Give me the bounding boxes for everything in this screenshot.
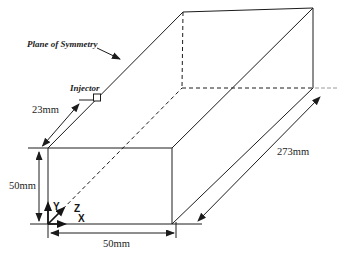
bottom-left-long-edge-hidden <box>48 88 182 224</box>
y-axis-label: Y <box>53 201 60 212</box>
length-dimension-label: 273mm <box>277 146 309 157</box>
length-dimension-line <box>198 97 320 221</box>
top-right-long-edge <box>172 8 313 148</box>
back-left-edge-hidden <box>182 12 183 88</box>
height-dimension-label: 50mm <box>9 180 36 191</box>
injector-square-icon <box>94 94 101 101</box>
width-dimension-label: 50mm <box>103 238 130 249</box>
plane-of-symmetry-edge <box>48 12 183 148</box>
plane-of-symmetry-arrow <box>97 48 120 59</box>
x-axis-label: X <box>78 213 85 224</box>
back-top-edge <box>183 8 313 12</box>
duct-geometry-diagram: Plane of Symmetry Injector 23mm 50mm 273… <box>0 0 340 257</box>
plane-of-symmetry-label: Plane of Symmetry <box>27 39 98 49</box>
diagram-canvas: Plane of Symmetry Injector 23mm 50mm 273… <box>0 0 340 257</box>
injector-offset-dimension-label: 23mm <box>32 104 59 115</box>
injector-label: Injector <box>69 83 100 93</box>
